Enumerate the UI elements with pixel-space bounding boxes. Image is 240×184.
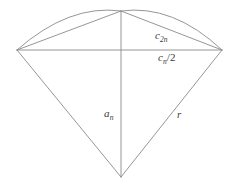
label-half-chord-n-sub: n (163, 57, 167, 66)
label-radius-base: r (177, 108, 181, 120)
radius-right-line (121, 50, 222, 177)
label-apothem-n: an (104, 108, 113, 119)
label-apothem-n-sub: n (110, 113, 114, 122)
geometry-figure: c2n cn/2 an r (0, 0, 240, 184)
label-radius: r (177, 109, 181, 120)
label-chord-2n: c2n (155, 30, 168, 41)
label-apothem-n-base: a (104, 107, 110, 119)
label-half-chord-n-suffix: /2 (167, 51, 176, 63)
label-half-chord-n: cn/2 (158, 52, 176, 63)
geometry-canvas (0, 0, 240, 184)
label-chord-2n-sub: 2n (160, 35, 168, 44)
circle-arc (17, 10, 222, 50)
